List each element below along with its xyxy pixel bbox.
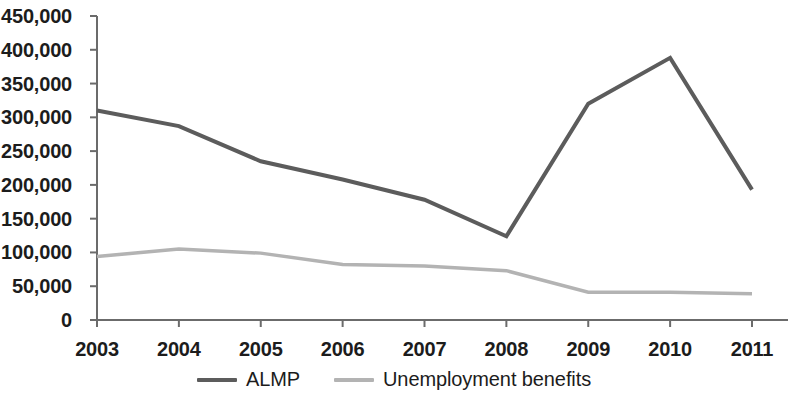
x-axis-tick-label: 2004 [157, 338, 201, 361]
x-axis-tick-label: 2003 [75, 338, 119, 361]
x-axis-tick-labels: 200320042005200620072008200920102011 [0, 0, 788, 397]
x-axis-tick-label: 2007 [403, 338, 447, 361]
legend-item-label: ALMP [246, 368, 300, 391]
chart-legend: ALMPUnemployment benefits [0, 368, 788, 391]
legend-item[interactable]: Unemployment benefits [334, 368, 591, 391]
x-axis-tick-label: 2009 [566, 338, 610, 361]
legend-swatch-icon [334, 378, 374, 382]
legend-swatch-icon [197, 378, 237, 382]
x-axis-tick-label: 2010 [648, 338, 692, 361]
x-axis-tick-label: 2011 [731, 338, 774, 361]
legend-item-label: Unemployment benefits [383, 368, 591, 391]
line-chart: 050,000100,000150,000200,000250,000300,0… [0, 0, 788, 397]
x-axis-tick-label: 2005 [239, 338, 283, 361]
legend-item[interactable]: ALMP [197, 368, 300, 391]
x-axis-tick-label: 2006 [321, 338, 365, 361]
x-axis-tick-label: 2008 [485, 338, 529, 361]
